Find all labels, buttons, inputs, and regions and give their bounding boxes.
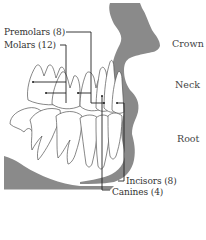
upper-teeth bbox=[27, 60, 124, 113]
region-crown: Crown bbox=[172, 39, 204, 49]
label-incisors: Incisors (8) bbox=[126, 176, 177, 186]
label-molars: Molars (12) bbox=[4, 40, 56, 50]
lower-teeth bbox=[10, 108, 122, 169]
region-neck: Neck bbox=[175, 80, 200, 90]
region-root: Root bbox=[177, 134, 199, 144]
label-premolars: Premolars (8) bbox=[4, 27, 65, 37]
label-canines: Canines (4) bbox=[112, 187, 163, 197]
